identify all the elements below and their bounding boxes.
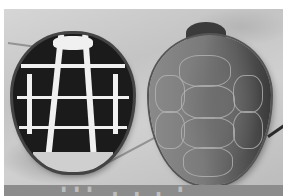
scute	[179, 55, 231, 87]
scute	[183, 147, 233, 177]
scute	[181, 117, 235, 149]
shell-band	[19, 126, 127, 129]
stick	[267, 123, 283, 138]
scute	[181, 85, 235, 119]
left-turtle-shell	[13, 34, 133, 172]
scute	[155, 111, 185, 149]
shell-band	[27, 74, 32, 134]
shell-band	[53, 36, 93, 50]
shell-band	[21, 64, 125, 68]
shell-band	[33, 152, 113, 172]
caption-text: ▘▘▘ ▗ ▗ ▗ ▝	[62, 187, 188, 196]
caption-bar: ▘▘▘ ▗ ▗ ▗ ▝	[4, 185, 283, 196]
scute	[233, 75, 263, 113]
right-turtle-shell	[149, 35, 271, 185]
scute	[233, 111, 263, 149]
scute	[155, 75, 185, 113]
turtle-photo	[4, 9, 283, 186]
shell-band	[113, 74, 118, 134]
